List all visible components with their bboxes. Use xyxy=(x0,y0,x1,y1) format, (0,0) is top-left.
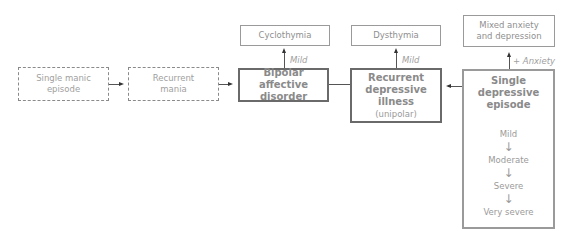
down-arrow-icon: ↓ xyxy=(503,193,513,206)
connector xyxy=(396,52,397,68)
edge-label-mild: Mild xyxy=(402,55,419,65)
node-subtext: (unipolar) xyxy=(375,108,416,120)
node-text: Recurrent xyxy=(368,72,424,84)
severity-very-severe: Very severe xyxy=(483,207,533,218)
arrowhead-icon xyxy=(228,82,233,86)
connector xyxy=(284,52,285,68)
arrowhead-icon xyxy=(507,52,511,57)
severity-mild: Mild xyxy=(500,129,517,140)
connector xyxy=(329,84,350,85)
node-text: Mixed anxiety xyxy=(479,20,538,31)
node-text: episode xyxy=(47,84,80,95)
node-text: Single manic xyxy=(36,73,91,84)
node-text: episode xyxy=(486,99,530,111)
single-manic-episode-node: Single manic episode xyxy=(18,67,109,101)
node-text: illness xyxy=(378,96,414,108)
edge-label-mild: Mild xyxy=(290,55,307,65)
severity-moderate: Moderate xyxy=(488,155,528,166)
node-text: Bipolar affective xyxy=(240,67,327,91)
down-arrow-icon: ↓ xyxy=(503,167,513,180)
node-text: depressive xyxy=(365,84,426,96)
node-text: Single depressive xyxy=(464,75,553,99)
node-text: Recurrent xyxy=(153,73,194,84)
dysthymia-node: Dysthymia xyxy=(351,25,441,46)
single-depressive-episode-node: Single depressive episode Mild ↓ Moderat… xyxy=(462,69,555,229)
node-text: Cyclothymia xyxy=(259,30,312,41)
node-text: and depression xyxy=(476,31,541,42)
down-arrow-icon: ↓ xyxy=(503,141,513,154)
recurrent-depressive-illness-node: Recurrent depressive illness (unipolar) xyxy=(350,68,442,123)
bipolar-affective-disorder-node: Bipolar affective disorder xyxy=(238,68,329,102)
node-text: disorder xyxy=(260,91,307,103)
connector xyxy=(509,56,510,70)
severity-severe: Severe xyxy=(494,181,523,192)
edge-label-anxiety: + Anxiety xyxy=(513,56,555,66)
cyclothymia-node: Cyclothymia xyxy=(240,25,330,46)
arrowhead-icon xyxy=(119,82,124,86)
mixed-anxiety-depression-node: Mixed anxiety and depression xyxy=(463,15,555,47)
arrowhead-icon xyxy=(282,48,286,53)
recurrent-mania-node: Recurrent mania xyxy=(128,67,219,101)
node-text: mania xyxy=(160,84,186,95)
arrowhead-icon xyxy=(446,84,451,88)
node-text: Dysthymia xyxy=(373,30,419,41)
arrowhead-icon xyxy=(394,48,398,53)
